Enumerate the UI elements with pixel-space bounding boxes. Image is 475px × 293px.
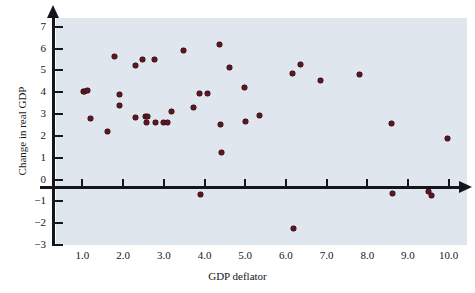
y-tick-mark xyxy=(55,26,63,28)
x-axis-title: GDP deflator xyxy=(0,270,475,282)
y-tick-mark xyxy=(55,48,63,50)
x-tick-label: 4.0 xyxy=(185,250,225,261)
y-tick-mark xyxy=(55,113,63,115)
x-tick-mark xyxy=(326,179,328,187)
x-tick-mark xyxy=(366,179,368,187)
x-tick-mark xyxy=(448,179,450,187)
data-point xyxy=(133,63,138,68)
y-tick-mark xyxy=(55,157,63,159)
data-point xyxy=(112,54,117,59)
x-tick-mark xyxy=(244,179,246,187)
y-axis-title: Change in real GDP xyxy=(16,51,28,211)
y-tick-label: 7 xyxy=(20,21,46,32)
x-tick-mark xyxy=(163,179,165,187)
data-point xyxy=(133,115,138,120)
data-point xyxy=(105,129,110,134)
y-tick-mark xyxy=(55,69,63,71)
scatter-plot-figure: 76543210−1−2−3 1.02.03.04.05.06.07.08.09… xyxy=(0,0,475,293)
x-tick-label: 8.0 xyxy=(347,250,387,261)
x-tick-mark xyxy=(122,179,124,187)
plot-panel xyxy=(56,18,467,245)
x-tick-mark xyxy=(204,179,206,187)
x-tick-mark xyxy=(285,179,287,187)
x-axis-line xyxy=(40,186,461,189)
data-point xyxy=(197,91,202,96)
x-tick-label: 1.0 xyxy=(62,250,102,261)
y-axis-line xyxy=(52,16,55,246)
y-tick-label: −3 xyxy=(20,239,46,250)
x-tick-mark xyxy=(407,179,409,187)
x-tick-label: 6.0 xyxy=(266,250,306,261)
data-point xyxy=(165,120,170,125)
y-tick-mark xyxy=(55,135,63,137)
x-tick-label: 2.0 xyxy=(103,250,143,261)
y-tick-label: −2 xyxy=(20,217,46,228)
y-tick-mark xyxy=(55,244,63,246)
data-point xyxy=(198,192,203,197)
data-point xyxy=(117,92,122,97)
data-point xyxy=(85,88,90,93)
data-point xyxy=(88,116,93,121)
data-point xyxy=(191,105,196,110)
y-axis-arrow-icon xyxy=(47,5,59,18)
data-point xyxy=(227,65,232,70)
data-point xyxy=(140,57,145,62)
x-tick-label: 10.0 xyxy=(429,250,469,261)
y-tick-mark xyxy=(55,222,63,224)
x-axis-arrow-icon xyxy=(459,181,472,193)
data-point xyxy=(152,57,157,62)
y-tick-mark xyxy=(55,91,63,93)
y-tick-mark xyxy=(55,179,63,181)
data-point xyxy=(291,226,296,231)
data-point xyxy=(390,191,395,196)
data-point xyxy=(243,119,248,124)
x-tick-label: 9.0 xyxy=(388,250,428,261)
data-point xyxy=(318,78,323,83)
data-point xyxy=(169,109,174,114)
x-tick-mark xyxy=(81,179,83,187)
x-tick-label: 7.0 xyxy=(307,250,347,261)
x-tick-label: 3.0 xyxy=(144,250,184,261)
data-point xyxy=(290,71,295,76)
x-tick-label: 5.0 xyxy=(225,250,265,261)
y-tick-mark xyxy=(55,200,63,202)
